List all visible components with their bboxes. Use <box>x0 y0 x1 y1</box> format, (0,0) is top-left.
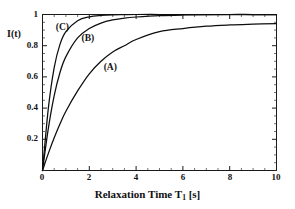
curves-group <box>43 14 277 170</box>
x-tick-label-10: 10 <box>266 172 286 182</box>
x-tick-label-6: 6 <box>173 172 193 182</box>
relaxation-curve-figure: 1 0.8 0.6 0.4 0.2 0 2 4 6 8 10 I(t) Rela… <box>0 0 295 209</box>
y-tick-label-1: 1 <box>6 9 38 19</box>
curve-a <box>43 24 277 171</box>
x-axis-title-suffix: [s] <box>186 188 200 200</box>
x-tick-label-2: 2 <box>79 172 99 182</box>
x-axis-title: Relaxation Time T1 [s] <box>0 188 295 200</box>
curve-label-a: (A) <box>104 62 117 72</box>
y-tick-label-0-6: 0.6 <box>6 71 38 81</box>
y-tick-label-0-2: 0.2 <box>6 133 38 143</box>
x-tick-label-4: 4 <box>126 172 146 182</box>
y-tick-label-0-4: 0.4 <box>6 102 38 112</box>
y-axis-title: I(t) <box>7 28 21 39</box>
curve-label-b: (B) <box>81 33 94 43</box>
x-axis-title-subscript: 1 <box>182 193 186 202</box>
x-tick-label-0: 0 <box>32 172 52 182</box>
x-tick-label-8: 8 <box>220 172 240 182</box>
x-axis-title-prefix: Relaxation Time T <box>95 188 182 200</box>
y-tick-label-0-8: 0.8 <box>6 40 38 50</box>
curve-label-c: (C) <box>56 22 69 32</box>
curve-b <box>43 14 277 170</box>
